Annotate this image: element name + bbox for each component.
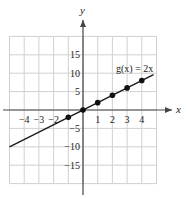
x-tick-label: 2 [110,114,115,125]
y-tick-label: 10 [70,68,80,79]
data-point [80,107,86,113]
x-tick-label: 4 [139,114,144,125]
y-axis-arrow-icon [80,20,86,27]
y-tick-label: −15 [64,160,80,171]
x-axis-arrow-icon [165,107,172,113]
function-label: g(x) = 2x [116,63,153,75]
y-tick-label: −10 [64,141,80,152]
y-axis-label: y [79,4,85,16]
x-tick-label: 1 [95,114,100,125]
data-point [66,115,72,121]
x-tick-label: 3 [125,114,130,125]
data-point [139,78,145,84]
data-point [124,85,130,91]
y-tick-label: 15 [70,49,80,60]
y-tick-label: 5 [75,86,80,97]
data-point [95,100,101,106]
function-series [10,75,154,147]
data-point [110,92,116,98]
x-tick-label: −4 [19,114,30,125]
graph-canvas: −4−3−2123415105−5−10−15 g(x) = 2x x y [0,0,188,199]
x-axis-label: x [175,103,181,115]
x-tick-label: −3 [34,114,45,125]
y-tick-label: −5 [69,123,80,134]
